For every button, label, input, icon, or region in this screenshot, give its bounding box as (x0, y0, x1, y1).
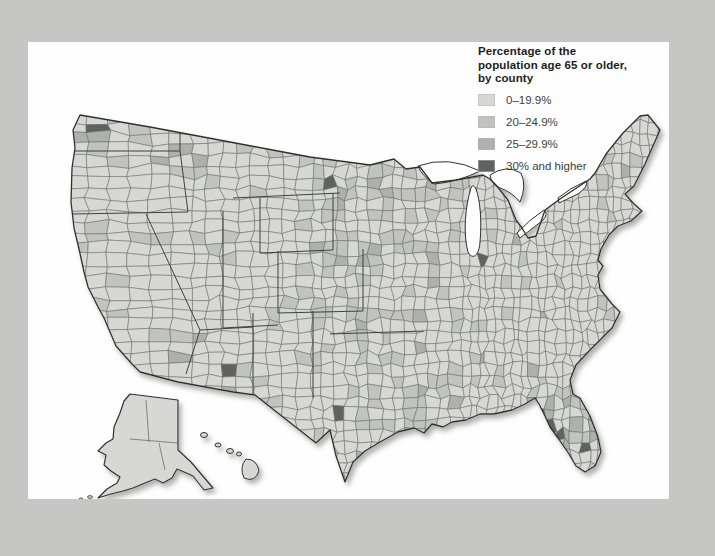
legend-title: Percentage of the population age 65 or o… (478, 45, 663, 86)
legend-swatch-20-24 (478, 116, 495, 128)
legend-items: 0–19.9% 20–24.9% 25–29.9% 30% and higher (478, 94, 663, 173)
legend-item: 0–19.9% (478, 94, 663, 107)
legend-swatch-30-plus (478, 160, 495, 172)
legend-label: 20–24.9% (506, 116, 558, 128)
legend-item: 30% and higher (478, 160, 663, 173)
legend-title-line: by county (478, 72, 533, 84)
legend-swatch-0-19 (478, 94, 495, 106)
legend-title-line: population age 65 or older, (478, 59, 627, 71)
legend-title-line: Percentage of the (478, 45, 576, 57)
legend: Percentage of the population age 65 or o… (478, 45, 663, 182)
legend-label: 0–19.9% (506, 94, 551, 106)
legend-item: 20–24.9% (478, 116, 663, 129)
legend-label: 25–29.9% (506, 138, 558, 150)
map-panel: Percentage of the population age 65 or o… (28, 42, 669, 499)
legend-item: 25–29.9% (478, 138, 663, 151)
legend-label: 30% and higher (506, 160, 587, 172)
legend-swatch-25-29 (478, 138, 495, 150)
